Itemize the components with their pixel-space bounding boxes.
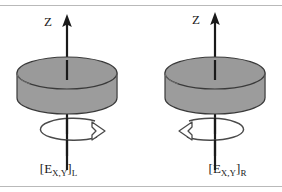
rotation-arrowhead-left xyxy=(92,122,105,140)
field-subscript-xy-left: X,Y xyxy=(52,168,67,178)
panel-right-handed: Z [EX,Y]R xyxy=(141,0,282,192)
rotation-ring-left xyxy=(40,118,97,140)
field-label-right: [EX,Y]R xyxy=(157,161,282,178)
z-axis-label-right: Z xyxy=(192,12,200,28)
rotation-arrowhead-right xyxy=(179,122,192,140)
field-label-left: [EX,Y]L xyxy=(0,161,129,178)
field-symbol-right: E xyxy=(213,161,221,176)
figure-canvas: Z [EX,Y]L Z [EX,Y]R xyxy=(0,0,282,192)
field-subscript-side-left: L xyxy=(72,168,78,178)
field-subscript-xy-right: X,Y xyxy=(221,168,236,178)
z-axis-label-left: Z xyxy=(44,14,52,30)
field-symbol-left: E xyxy=(44,161,52,176)
field-subscript-side-right: R xyxy=(240,168,246,178)
panel-left-handed: Z [EX,Y]L xyxy=(0,0,141,192)
